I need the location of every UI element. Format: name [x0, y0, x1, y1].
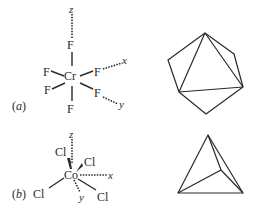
bond-upper-left — [51, 71, 64, 76]
y-axis-label: y — [118, 98, 124, 110]
bond-lower-left-b — [49, 178, 64, 188]
z-axis-label: z — [68, 3, 74, 15]
x-axis-label-b: x — [107, 169, 113, 181]
tetrahedron-outline — [178, 135, 243, 193]
ligand-cl-lower-left: Cl — [33, 187, 45, 201]
bond-lower-right — [80, 83, 93, 89]
bond-lower-right-b — [78, 179, 96, 190]
x-axis-label: x — [121, 54, 127, 66]
y-axis-line — [103, 97, 118, 104]
octahedron-outline — [168, 33, 243, 114]
ligand-cl-right: Cl — [84, 155, 96, 169]
central-atom-co: Co — [64, 168, 78, 182]
ligand-cl-top: Cl — [55, 145, 67, 159]
y-axis-label-b: y — [78, 191, 84, 203]
octahedron-shape — [168, 33, 243, 114]
bond-lower-left — [52, 83, 65, 89]
x-axis-line — [103, 63, 122, 69]
octahedron-edge — [205, 33, 243, 87]
ligand-cl-lower-right: Cl — [97, 190, 109, 204]
ligand-f-bottom: F — [67, 102, 74, 116]
octahedron-edge — [179, 87, 243, 92]
panel-a-label: (a) — [12, 99, 26, 113]
panel-b-label: (b) — [12, 187, 26, 201]
bond-upper-right — [80, 71, 93, 76]
coordination-geometry-figure: z F Cr F F F x F y F (a) — [0, 0, 255, 207]
tetrahedron-edge — [221, 170, 243, 193]
panel-a-structure: z F Cr F F F x F y F (a) — [12, 3, 127, 116]
z-axis-label-b: z — [68, 128, 74, 140]
tetrahedron-shape — [178, 135, 243, 193]
ligand-f-upper-right: F — [94, 65, 101, 79]
panel-b-structure: z Cl Cl Co x y Cl Cl (b) — [12, 128, 113, 204]
ligand-f-lower-left: F — [44, 83, 51, 97]
ligand-f-lower-right: F — [94, 86, 101, 100]
central-atom-cr: Cr — [64, 69, 76, 83]
ligand-f-top: F — [67, 38, 74, 52]
ligand-f-upper-left: F — [43, 65, 50, 79]
